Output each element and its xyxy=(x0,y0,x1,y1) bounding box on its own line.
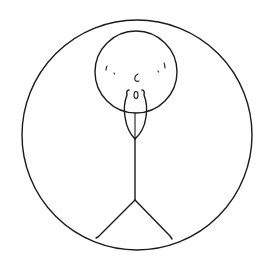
left-eyebrow xyxy=(106,66,107,70)
left-leg xyxy=(96,200,135,238)
nose xyxy=(135,74,139,81)
right-eyebrow xyxy=(164,63,165,68)
drawing-svg xyxy=(0,0,262,262)
stick-figure xyxy=(95,31,177,239)
outer-circle xyxy=(22,20,252,250)
left-eye xyxy=(114,73,115,74)
beard-left xyxy=(124,90,135,139)
head xyxy=(95,31,177,113)
stick-figure-drawing: Hand-drawn stick figure with a long bear… xyxy=(0,0,262,262)
mouth xyxy=(134,92,138,99)
right-leg xyxy=(135,200,172,239)
right-eye xyxy=(158,71,159,72)
beard-right xyxy=(135,90,147,139)
